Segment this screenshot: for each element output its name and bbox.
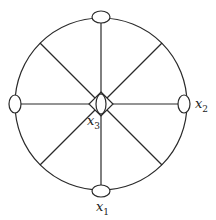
- label-x3: x3: [87, 113, 100, 131]
- graph-diagram: x2 x1 x3: [0, 0, 216, 220]
- spoke-bottom-right: [107, 110, 162, 165]
- vertex-bottom: [92, 185, 110, 197]
- spoke-top-right: [107, 43, 162, 98]
- vertex-center: [96, 94, 106, 114]
- vertex-top: [92, 11, 110, 23]
- spoke-top-left: [40, 43, 95, 98]
- vertex-right: [178, 95, 190, 113]
- label-x2: x2: [195, 96, 208, 114]
- label-x1: x1: [96, 199, 109, 217]
- vertex-left: [9, 95, 21, 113]
